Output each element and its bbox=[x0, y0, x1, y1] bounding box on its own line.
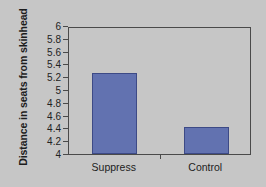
plot-area bbox=[68, 27, 251, 155]
y-axis-tick-label: 4 bbox=[55, 149, 61, 161]
y-axis-tick-label: 4.2 bbox=[47, 136, 61, 148]
y-axis-tick: 5.8 bbox=[0, 34, 68, 46]
y-axis-tick: 4.2 bbox=[0, 136, 68, 148]
y-axis-tick-label: 4.6 bbox=[47, 111, 61, 123]
x-axis-tick-label: Suppress bbox=[69, 160, 159, 174]
y-axis-tick-label: 5.8 bbox=[47, 34, 61, 46]
bar-suppress bbox=[92, 73, 137, 154]
bar-chart-figure: Distance in seats from skinhead 44.24.44… bbox=[0, 0, 266, 187]
plot-inner bbox=[69, 28, 250, 154]
y-axis-tick: 5 bbox=[0, 85, 68, 97]
y-axis-tick-label: 5.4 bbox=[47, 59, 61, 71]
y-axis-tick: 4.6 bbox=[0, 111, 68, 123]
y-axis-tick: 6 bbox=[0, 21, 68, 33]
y-axis-tick-label: 5 bbox=[55, 85, 61, 97]
y-axis-tick-label: 4.4 bbox=[47, 123, 61, 135]
y-axis-tick-label: 5.6 bbox=[47, 47, 61, 59]
x-axis-center-tick-mark bbox=[160, 155, 161, 159]
y-axis-tick: 4 bbox=[0, 149, 68, 161]
y-axis-tick: 5.2 bbox=[0, 72, 68, 84]
y-axis-tick-label: 6 bbox=[55, 21, 61, 33]
x-axis-tick-label: Control bbox=[160, 160, 250, 174]
y-axis-tick: 4.4 bbox=[0, 123, 68, 135]
y-axis-tick: 5.6 bbox=[0, 47, 68, 59]
y-axis-tick-label: 4.8 bbox=[47, 98, 61, 110]
y-axis-tick: 5.4 bbox=[0, 59, 68, 71]
y-axis-tick-label: 5.2 bbox=[47, 72, 61, 84]
bar-control bbox=[184, 127, 229, 154]
y-axis-tick: 4.8 bbox=[0, 98, 68, 110]
